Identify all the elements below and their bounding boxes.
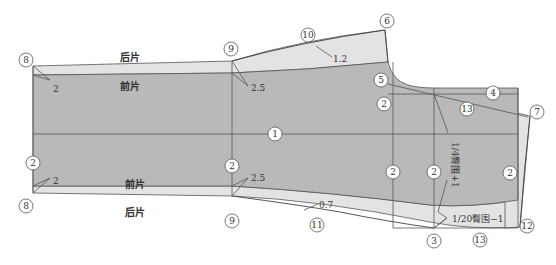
svg-text:2: 2 xyxy=(390,167,396,177)
marker-6: 6 xyxy=(380,14,394,28)
marker-7: 7 xyxy=(530,105,544,119)
formula-quarter-hip: 1/4臀围+1 xyxy=(450,142,460,188)
label-back-bottom: 后片 xyxy=(125,206,145,218)
svg-text:2: 2 xyxy=(30,158,36,168)
dim-left-top: 2 xyxy=(53,84,59,94)
svg-text:11: 11 xyxy=(311,220,322,230)
formula-twentieth-hip: 1/20臀围−1 xyxy=(452,214,503,224)
svg-text:1: 1 xyxy=(272,129,278,139)
marker-8-top: 8 xyxy=(19,53,33,67)
label-back-top: 后片 xyxy=(120,51,140,63)
marker-2-knee: 2 xyxy=(225,159,239,173)
marker-3: 3 xyxy=(427,234,441,248)
pattern-canvas: 后片 前片 前片 后片 1/4臀围+1 1/20臀围−1 2 2 2.5 2.5… xyxy=(0,0,556,265)
svg-text:9: 9 xyxy=(228,44,234,54)
marker-8-bottom: 8 xyxy=(19,199,33,213)
dim-knee-top: 2.5 xyxy=(251,83,266,93)
svg-text:5: 5 xyxy=(378,75,384,85)
marker-2-right: 2 xyxy=(503,166,517,180)
marker-2-hip: 2 xyxy=(427,165,441,179)
svg-text:2: 2 xyxy=(507,168,513,178)
svg-text:4: 4 xyxy=(490,88,496,98)
svg-text:2: 2 xyxy=(381,99,387,109)
svg-text:13: 13 xyxy=(461,104,473,114)
svg-text:8: 8 xyxy=(23,201,29,211)
svg-text:8: 8 xyxy=(23,55,29,65)
pants-pattern-diagram: 后片 前片 前片 后片 1/4臀围+1 1/20臀围−1 2 2 2.5 2.5… xyxy=(0,0,556,265)
label-front-bottom: 前片 xyxy=(125,178,145,190)
svg-text:10: 10 xyxy=(302,30,314,40)
svg-text:13: 13 xyxy=(474,235,486,245)
svg-text:6: 6 xyxy=(384,16,390,26)
leader-back-bottom-curve xyxy=(304,204,318,210)
marker-11: 11 xyxy=(310,218,324,232)
marker-12: 12 xyxy=(520,219,534,233)
marker-10: 10 xyxy=(301,28,315,42)
svg-text:12: 12 xyxy=(521,221,532,231)
marker-4: 4 xyxy=(486,86,500,100)
dim-back-top-curve: 1.2 xyxy=(333,54,347,64)
marker-5: 5 xyxy=(374,73,388,87)
svg-text:2: 2 xyxy=(431,167,437,177)
svg-text:3: 3 xyxy=(431,236,437,246)
svg-text:2: 2 xyxy=(229,161,235,171)
dim-back-bottom-curve: 0.7 xyxy=(319,200,334,210)
marker-2-left: 2 xyxy=(26,156,40,170)
dim-knee-bottom: 2.5 xyxy=(251,173,266,183)
label-front-top: 前片 xyxy=(120,80,140,92)
dim-left-bottom: 2 xyxy=(53,176,59,186)
marker-2-upper: 2 xyxy=(377,97,391,111)
svg-text:7: 7 xyxy=(534,107,540,117)
marker-9-bottom: 9 xyxy=(225,214,239,228)
marker-13-top: 13 xyxy=(460,102,474,116)
marker-1: 1 xyxy=(268,127,282,141)
marker-9-top: 9 xyxy=(224,42,238,56)
svg-text:9: 9 xyxy=(229,216,235,226)
marker-13-bottom: 13 xyxy=(473,233,487,247)
marker-2-crotch: 2 xyxy=(386,165,400,179)
